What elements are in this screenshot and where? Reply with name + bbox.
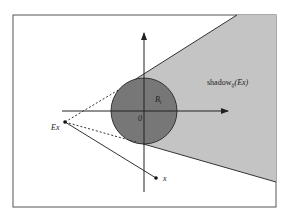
origin-label: 0 <box>138 114 142 123</box>
shadow-diagram: shadowtj(Ex) Bt 0 Ex x <box>0 0 292 215</box>
ex-point <box>63 120 67 124</box>
ex-label: Ex <box>50 123 60 132</box>
x-label: x <box>162 174 167 183</box>
x-point <box>154 176 158 180</box>
shadow-label: shadowtj(Ex) <box>207 78 249 88</box>
